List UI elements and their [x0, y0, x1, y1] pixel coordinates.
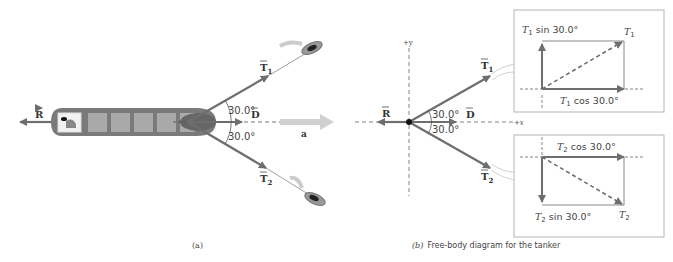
panel-a: 30.0° 30.0° R D a T1 T2 (a): [20, 39, 334, 250]
tension-2-vector: [188, 122, 266, 168]
svg-text:T2: T2: [260, 173, 272, 187]
svg-text:R: R: [35, 109, 44, 120]
fbd-label-R: R: [382, 107, 391, 119]
plus-x-label: +x: [514, 119, 524, 127]
label-D: D: [251, 108, 260, 120]
fbd-label-T2: T2: [481, 170, 493, 185]
inset-top-T1-components: T1 sin 30.0° T1 cos 30.0° T1: [514, 10, 664, 112]
svg-text:D: D: [466, 109, 475, 120]
fbd-label-D: D: [466, 108, 475, 120]
caption-b: (b)Free-body diagram for the tanker: [412, 241, 561, 250]
label-a: a: [301, 129, 307, 139]
plus-y-label: +y: [403, 39, 413, 47]
tow-cable-1: [268, 52, 308, 76]
callout-connector-bottom: [491, 164, 514, 180]
svg-text:a: a: [301, 129, 307, 139]
tugboat-1-icon: [280, 39, 324, 57]
svg-text:R: R: [382, 108, 391, 119]
acceleration-vector: [280, 114, 334, 130]
fbd-angle-top: 30.0°: [432, 109, 459, 120]
label-T2: T2: [260, 172, 272, 187]
angle-label-bottom: 30.0°: [228, 131, 255, 142]
fbd-label-T1: T1: [481, 59, 493, 74]
label-R: R: [35, 108, 44, 120]
label-T1: T1: [260, 61, 272, 76]
svg-text:D: D: [251, 109, 260, 120]
inset-bottom-T2-components: T2 cos 30.0° T2 sin 30.0° T2: [514, 135, 664, 237]
tugboat-2-icon: [290, 178, 327, 208]
caption-a: (a): [192, 241, 203, 250]
svg-text:T2: T2: [481, 171, 493, 185]
fbd-angle-bottom: 30.0°: [432, 124, 459, 135]
svg-text:T1: T1: [260, 62, 272, 76]
callout-connector-top: [491, 64, 514, 80]
tanker-point: [406, 119, 412, 125]
panel-b: +y +x 30.0° 30.0° R D T1 T2: [355, 10, 664, 250]
svg-text:T1: T1: [481, 60, 493, 74]
tanker-diagram: 30.0° 30.0° R D a T1 T2 (a) +y +x: [0, 0, 673, 262]
